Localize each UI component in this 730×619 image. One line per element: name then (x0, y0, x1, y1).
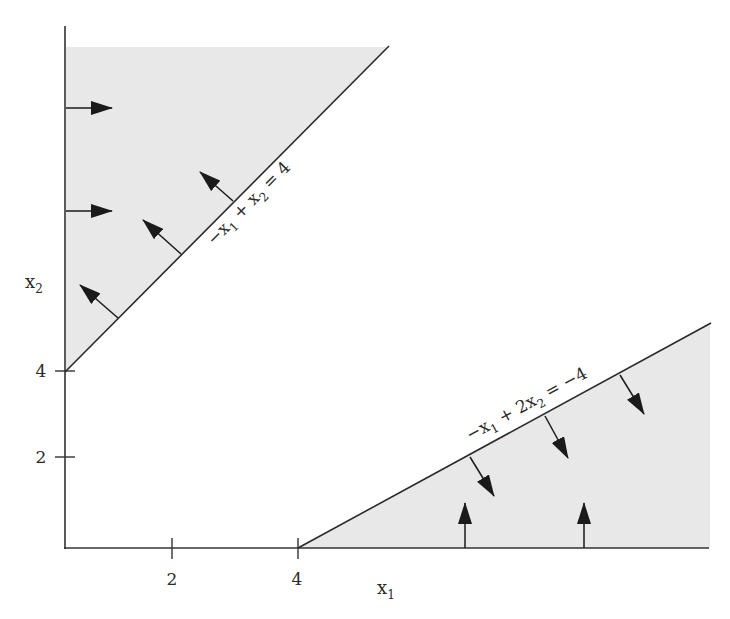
y-axis-label: x2 (25, 271, 43, 296)
x-tick-label-2: 2 (167, 569, 178, 589)
feasible-region-diagram: 2 4 4 2 x1 x2 −x1 + x2 = 4 −x1 + 2x2 = −… (0, 0, 730, 619)
x-axis-label: x1 (377, 577, 395, 602)
y-tick-label-4: 4 (36, 361, 47, 381)
y-tick-label-2: 2 (36, 447, 47, 467)
x-tick-label-4: 4 (292, 569, 303, 589)
